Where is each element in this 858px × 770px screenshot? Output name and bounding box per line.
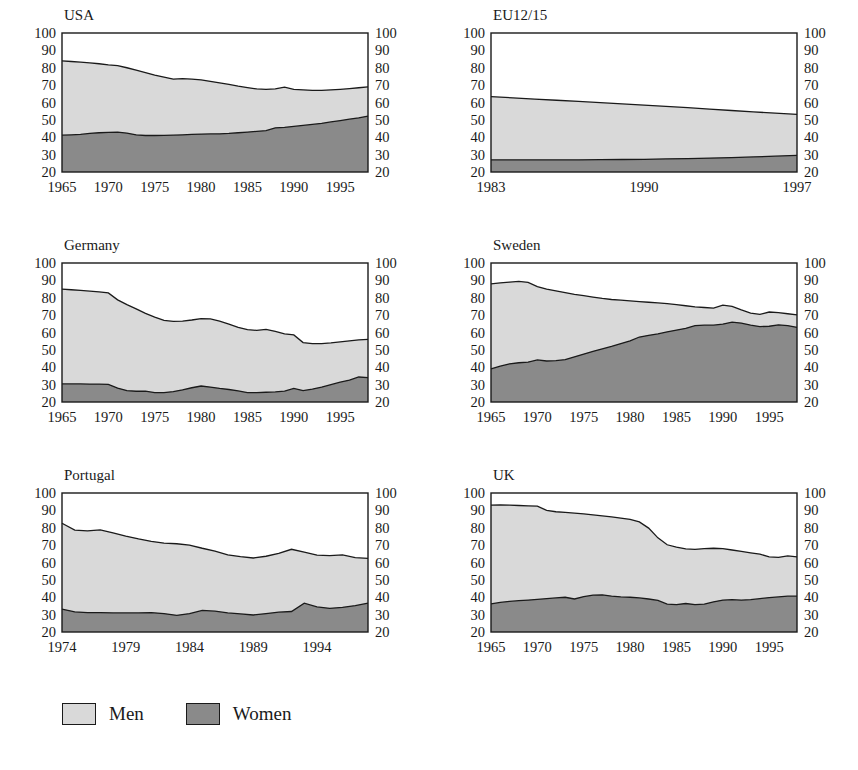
y-tick-label-right: 70 <box>375 77 390 93</box>
x-tick-label: 1994 <box>303 639 333 655</box>
y-tick-label-right: 70 <box>804 307 819 323</box>
x-tick-label: 1965 <box>477 409 506 425</box>
y-tick-label-right: 100 <box>804 485 826 501</box>
y-tick-label-left: 80 <box>42 60 57 76</box>
x-tick-label: 1975 <box>569 639 598 655</box>
y-tick-label-right: 50 <box>804 572 819 588</box>
y-tick-label-left: 50 <box>471 112 486 128</box>
y-tick-label-right: 100 <box>375 255 397 271</box>
x-tick-label: 1965 <box>48 409 77 425</box>
legend-item-women: Women <box>186 703 292 725</box>
x-tick-label: 1985 <box>233 409 262 425</box>
y-tick-label-left: 90 <box>471 42 486 58</box>
y-tick-label-left: 20 <box>471 164 486 180</box>
plot-area: 2020303040405050606070708080909010010019… <box>0 0 429 215</box>
y-tick-label-right: 70 <box>804 77 819 93</box>
x-tick-label: 1995 <box>755 639 784 655</box>
y-tick-label-left: 80 <box>471 290 486 306</box>
y-tick-label-left: 30 <box>471 377 486 393</box>
y-tick-label-left: 40 <box>471 129 486 145</box>
y-tick-label-right: 80 <box>804 520 819 536</box>
x-tick-label: 1985 <box>662 409 691 425</box>
x-tick-label: 1995 <box>326 179 355 195</box>
y-tick-label-right: 30 <box>804 147 819 163</box>
x-tick-label: 1975 <box>140 179 169 195</box>
y-tick-label-right: 20 <box>804 394 819 410</box>
y-tick-label-left: 100 <box>34 485 56 501</box>
x-tick-label: 1985 <box>662 639 691 655</box>
y-tick-label-right: 90 <box>375 272 390 288</box>
y-tick-label-left: 30 <box>471 147 486 163</box>
x-tick-label: 1997 <box>783 179 812 195</box>
y-tick-label-left: 50 <box>42 342 57 358</box>
y-tick-label-right: 40 <box>804 359 819 375</box>
y-tick-label-left: 60 <box>471 325 486 341</box>
y-tick-label-left: 80 <box>471 520 486 536</box>
y-tick-label-right: 90 <box>804 272 819 288</box>
y-tick-label-right: 70 <box>375 537 390 553</box>
y-tick-label-left: 80 <box>471 60 486 76</box>
y-tick-label-left: 70 <box>471 537 486 553</box>
legend-label-men: Men <box>109 703 144 725</box>
y-tick-label-left: 100 <box>463 485 485 501</box>
y-tick-label-right: 100 <box>804 255 826 271</box>
x-tick-label: 1974 <box>48 639 78 655</box>
y-tick-label-right: 50 <box>375 572 390 588</box>
y-tick-label-right: 30 <box>375 147 390 163</box>
plot-area: 2020303040405050606070708080909010010019… <box>429 230 858 445</box>
y-tick-label-right: 100 <box>375 25 397 41</box>
y-tick-label-left: 20 <box>471 624 486 640</box>
x-tick-label: 1970 <box>94 179 123 195</box>
y-tick-label-left: 100 <box>463 255 485 271</box>
figure-root: USA2020303040405050606070708080909010010… <box>0 0 858 770</box>
y-tick-label-left: 40 <box>471 589 486 605</box>
x-tick-label: 1989 <box>239 639 268 655</box>
x-tick-label: 1985 <box>233 179 262 195</box>
y-tick-label-left: 60 <box>42 95 57 111</box>
x-tick-label: 1995 <box>755 409 784 425</box>
y-tick-label-left: 70 <box>42 77 57 93</box>
y-tick-label-right: 20 <box>375 624 390 640</box>
x-tick-label: 1995 <box>326 409 355 425</box>
x-tick-label: 1980 <box>187 409 216 425</box>
y-tick-label-left: 70 <box>471 307 486 323</box>
y-tick-label-right: 40 <box>375 129 390 145</box>
y-tick-label-right: 60 <box>375 325 390 341</box>
y-tick-label-left: 50 <box>471 572 486 588</box>
y-tick-label-right: 50 <box>804 112 819 128</box>
legend-item-men: Men <box>62 703 144 725</box>
x-tick-label: 1970 <box>94 409 123 425</box>
y-tick-label-right: 60 <box>804 95 819 111</box>
x-tick-label: 1980 <box>616 639 645 655</box>
y-tick-label-right: 90 <box>804 502 819 518</box>
plot-area: 2020303040405050606070708080909010010019… <box>429 0 858 215</box>
y-tick-label-right: 100 <box>804 25 826 41</box>
x-tick-label: 1979 <box>111 639 140 655</box>
y-tick-label-right: 70 <box>375 307 390 323</box>
y-tick-label-right: 80 <box>375 520 390 536</box>
chart-panel-portugal: Portugal20203030404050506060707080809090… <box>0 460 429 675</box>
y-tick-label-left: 40 <box>42 589 57 605</box>
plot-area: 2020303040405050606070708080909010010019… <box>0 460 429 675</box>
x-tick-label: 1990 <box>279 409 308 425</box>
y-tick-label-right: 60 <box>804 555 819 571</box>
y-tick-label-left: 20 <box>42 394 57 410</box>
chart-panel-usa: USA2020303040405050606070708080909010010… <box>0 0 429 215</box>
y-tick-label-left: 50 <box>471 342 486 358</box>
y-tick-label-left: 30 <box>42 147 57 163</box>
panel-grid: USA2020303040405050606070708080909010010… <box>0 0 858 690</box>
y-tick-label-right: 80 <box>804 290 819 306</box>
y-tick-label-right: 100 <box>375 485 397 501</box>
y-tick-label-right: 40 <box>804 129 819 145</box>
y-tick-label-right: 50 <box>804 342 819 358</box>
y-tick-label-left: 20 <box>471 394 486 410</box>
y-tick-label-left: 90 <box>42 502 57 518</box>
x-tick-label: 1984 <box>175 639 205 655</box>
x-tick-label: 1970 <box>523 639 552 655</box>
y-tick-label-left: 70 <box>42 307 57 323</box>
y-tick-label-right: 50 <box>375 112 390 128</box>
x-tick-label: 1975 <box>569 409 598 425</box>
y-tick-label-left: 60 <box>471 95 486 111</box>
y-tick-label-left: 70 <box>42 537 57 553</box>
y-tick-label-right: 60 <box>375 95 390 111</box>
